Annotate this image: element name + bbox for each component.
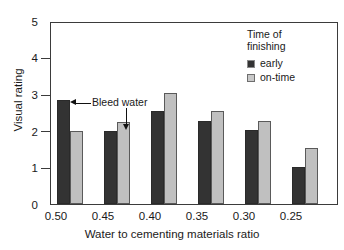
x-tick-label-3: 0.35 [173,210,221,222]
bleed-water-annotation-label: Bleed water [92,97,147,108]
y-tick-label-3: 3 [22,89,38,101]
legend-swatch-ontime-icon [247,74,255,82]
legend-swatch-early-icon [247,60,255,68]
bar-early-2 [151,111,164,204]
x-tick-label-1: 0.45 [79,210,127,222]
bar-ontime-3 [211,111,224,204]
bar-ontime-4 [258,121,271,204]
bleed-water-leader-line-horizontal [76,103,91,104]
bar-chart: 5 4 3 2 1 0 Visual rating Time of [0,0,344,250]
y-tick-label-2: 2 [22,126,38,138]
legend: Time of finishing early on-time [247,28,337,83]
bar-early-3 [198,121,211,204]
bar-early-4 [245,130,258,204]
x-tick-label-5: 0.25 [267,210,315,222]
bar-ontime-2 [164,93,177,204]
legend-title-line2: finishing [247,40,337,52]
y-axis-title: Visual rating [12,45,24,155]
x-tick-label-4: 0.30 [220,210,268,222]
legend-entries: early on-time [247,58,337,83]
x-axis-title: Water to cementing materials ratio [0,228,344,241]
y-tick-3 [41,95,50,96]
bar-ontime-5 [305,148,318,204]
legend-label-early: early [260,58,283,69]
y-tick-label-4: 4 [22,52,38,64]
bar-early-0 [57,100,70,204]
bleed-water-down-arrow-icon [123,124,129,130]
x-tick-label-2: 0.40 [126,210,174,222]
bleed-water-leader-line-vertical [126,108,127,125]
y-tick-label-5: 5 [22,16,38,28]
legend-item-early: early [247,58,337,69]
legend-label-ontime: on-time [260,72,295,83]
x-tick-label-0: 0.50 [32,210,80,222]
legend-item-ontime: on-time [247,72,337,83]
y-tick-4 [41,58,50,59]
bar-early-5 [292,167,305,204]
bar-ontime-1 [117,122,130,204]
y-tick-1 [41,168,50,169]
bar-early-1 [104,131,117,204]
y-tick-2 [41,131,50,132]
plot-area: Time of finishing early on-time [50,22,338,205]
legend-title-line1: Time of [247,28,337,40]
y-tick-label-1: 1 [22,162,38,174]
bar-ontime-0 [70,131,83,204]
